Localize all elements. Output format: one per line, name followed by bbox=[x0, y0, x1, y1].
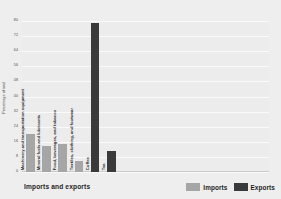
y-axis-tick-label: 24 bbox=[14, 125, 18, 129]
legend-swatch bbox=[234, 183, 248, 191]
y-axis-tick-label: 32 bbox=[14, 110, 18, 114]
bar-chart: Percentage of total 80726456484032241680… bbox=[0, 0, 281, 199]
y-axis-tick-label: 64 bbox=[14, 49, 18, 53]
category-label: Food, beverages, and tobacco bbox=[53, 110, 57, 170]
y-axis-tick-label: 8 bbox=[16, 155, 18, 159]
legend-item[interactable]: Exports bbox=[234, 183, 276, 191]
bar bbox=[91, 23, 100, 172]
y-axis-tick-label: 80 bbox=[14, 19, 18, 23]
y-axis-tick-labels: 80726456484032241680 bbox=[0, 21, 20, 172]
category-label: Textiles, clothing, and footwear bbox=[69, 108, 73, 170]
bar-slot: Machinery and transportation equipment bbox=[26, 21, 35, 172]
bar bbox=[42, 146, 51, 172]
bar-slot: Textiles, clothing, and footwear bbox=[75, 21, 84, 172]
y-axis-tick-label: 0 bbox=[16, 170, 18, 174]
bar bbox=[75, 161, 84, 172]
y-axis-tick-label: 72 bbox=[14, 34, 18, 38]
y-axis-tick-label: 56 bbox=[14, 65, 18, 69]
legend-swatch bbox=[186, 183, 200, 191]
category-label: Mineral fuels and lubricants bbox=[37, 115, 41, 170]
gridline bbox=[22, 172, 269, 173]
bar bbox=[107, 151, 116, 172]
legend-label: Imports bbox=[203, 184, 227, 191]
category-label: Machinery and transportation equipment bbox=[21, 89, 25, 170]
legend-item[interactable]: Imports bbox=[186, 183, 227, 191]
bar-slot: Food, beverages, and tobacco bbox=[58, 21, 67, 172]
plot-area: Machinery and transportation equipmentMi… bbox=[22, 21, 269, 172]
bar-slot: Tea bbox=[107, 21, 116, 172]
category-label: Coffee bbox=[86, 157, 90, 170]
bar bbox=[58, 144, 67, 172]
y-axis-tick-label: 48 bbox=[14, 80, 18, 84]
bar bbox=[26, 134, 35, 172]
x-axis-title: Imports and exports bbox=[24, 183, 90, 190]
y-axis-tick-label: 16 bbox=[14, 140, 18, 144]
legend-label: Exports bbox=[251, 184, 276, 191]
bar-slot: Coffee bbox=[91, 21, 100, 172]
legend: ImportsExports bbox=[186, 183, 275, 191]
category-label: Tea bbox=[102, 163, 106, 170]
y-axis-tick-label: 40 bbox=[14, 95, 18, 99]
bar-slot: Mineral fuels and lubricants bbox=[42, 21, 51, 172]
